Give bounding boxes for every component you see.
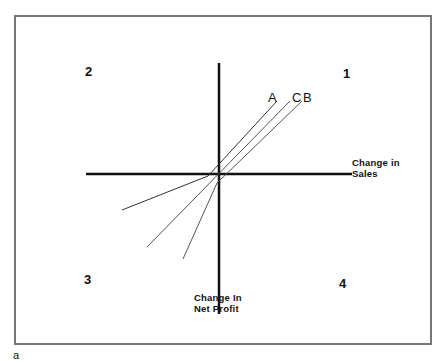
x-axis-label-line1: Change in bbox=[352, 157, 400, 168]
line-b bbox=[183, 101, 302, 259]
quadrant-2-label: 2 bbox=[85, 64, 92, 79]
x-axis-label-line2: Sales bbox=[352, 168, 400, 179]
line-c-label: C bbox=[292, 90, 301, 105]
y-axis-label: Change In Net Profit bbox=[194, 292, 242, 314]
y-axis-label-line1: Change In bbox=[194, 292, 242, 303]
quadrant-3-label: 3 bbox=[84, 272, 91, 287]
quadrant-4-label: 4 bbox=[339, 276, 346, 291]
line-a-label: A bbox=[268, 90, 277, 105]
x-axis-label: Change in Sales bbox=[352, 157, 400, 179]
quadrant-1-label: 1 bbox=[343, 66, 350, 81]
figure-caption: a bbox=[13, 349, 19, 361]
line-b-label: B bbox=[303, 90, 312, 105]
y-axis-label-line2: Net Profit bbox=[194, 303, 242, 314]
